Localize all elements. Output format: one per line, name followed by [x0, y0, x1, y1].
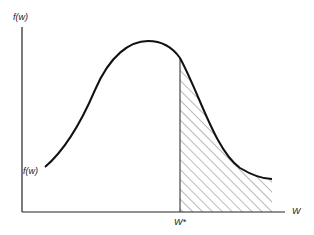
density-curve [45, 41, 272, 179]
x-axis-label: W [292, 206, 301, 216]
shaded-tail-area [180, 55, 275, 213]
curve-label: f(w) [23, 166, 38, 176]
threshold-label: W* [174, 217, 186, 227]
density-diagram [0, 0, 314, 235]
y-axis-label: f(w) [13, 12, 28, 22]
